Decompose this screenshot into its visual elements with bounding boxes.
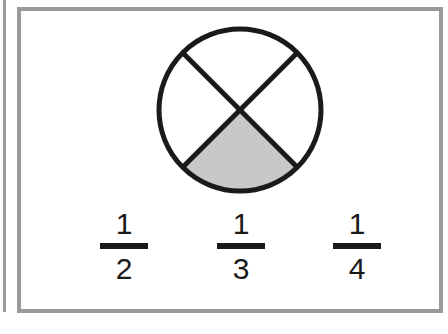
- numerator: 1: [94, 208, 154, 240]
- numerator: 1: [211, 208, 271, 240]
- fraction-bar: [100, 243, 148, 249]
- fraction-half: 1 2: [94, 208, 154, 285]
- numerator: 1: [327, 208, 387, 240]
- fraction-third: 1 3: [211, 208, 271, 285]
- denominator: 3: [211, 253, 271, 285]
- fraction-bar: [217, 243, 265, 249]
- fraction-bar: [333, 243, 381, 249]
- denominator: 4: [327, 253, 387, 285]
- denominator: 2: [94, 253, 154, 285]
- fraction-quarter: 1 4: [327, 208, 387, 285]
- quartered-circle: [154, 24, 326, 196]
- left-panel-border: [0, 0, 6, 312]
